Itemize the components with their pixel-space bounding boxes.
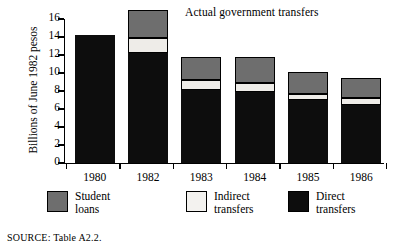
bar-1983[interactable]	[181, 19, 221, 163]
legend-swatch-indirect	[186, 191, 207, 212]
y-tick-label: 14	[34, 29, 60, 41]
legend-label-line1: Indirect	[214, 190, 254, 203]
bar-segment-1985-student-loans	[288, 72, 328, 94]
bar-segment-1984-indirect-transfers	[235, 83, 275, 92]
legend-item-student[interactable]: Studentloans	[47, 190, 110, 216]
bar-segment-1985-indirect-transfers	[288, 94, 328, 100]
x-tick-mark	[226, 163, 227, 169]
bar-1980[interactable]	[75, 19, 115, 163]
source-note: SOURCE: Table A2.2.	[7, 232, 102, 243]
legend-label-line1: Student	[75, 190, 110, 203]
x-tick-mark	[173, 163, 174, 169]
x-tick-mark	[119, 163, 120, 169]
figure: Actual government transfers Billions of …	[0, 0, 395, 252]
bar-segment-1982-student-loans	[128, 10, 168, 38]
bar-1985[interactable]	[288, 19, 328, 163]
bar-1982[interactable]	[128, 19, 168, 163]
legend-label-line2: transfers	[214, 203, 254, 216]
legend-item-direct[interactable]: Directtransfers	[288, 190, 356, 216]
legend-swatch-student	[47, 191, 68, 212]
bar-segment-1983-indirect-transfers	[181, 80, 221, 90]
bar-segment-1982-indirect-transfers	[128, 38, 168, 53]
y-tick-label: 10	[34, 65, 60, 77]
source-text: Table A2.2.	[53, 232, 101, 243]
bar-segment-1986-indirect-transfers	[341, 98, 381, 105]
x-tick-label-1984: 1984	[243, 171, 266, 183]
y-tick-label: 6	[34, 101, 60, 113]
y-axis-line	[64, 19, 65, 163]
y-tick-label: 16	[34, 11, 60, 23]
x-tick-label-1986: 1986	[350, 171, 373, 183]
x-tick-mark	[66, 163, 67, 169]
x-tick-mark	[279, 163, 280, 169]
bar-segment-1983-student-loans	[181, 57, 221, 80]
x-tick-label-1982: 1982	[137, 171, 160, 183]
bar-segment-1986-direct-transfers	[341, 105, 381, 163]
legend-label: Studentloans	[75, 190, 110, 216]
bar-segment-1982-direct-transfers	[128, 53, 168, 163]
y-tick-label: 12	[34, 47, 60, 59]
y-tick-label: 2	[34, 137, 60, 149]
chart-title: Actual government transfers	[185, 6, 319, 18]
bar-segment-1984-student-loans	[235, 57, 275, 83]
x-tick-label-1985: 1985	[297, 171, 320, 183]
legend-item-indirect[interactable]: Indirecttransfers	[186, 190, 254, 216]
bar-segment-1986-student-loans	[341, 78, 381, 99]
y-tick-label: 4	[34, 119, 60, 131]
y-tick-label: 0	[34, 155, 60, 167]
chart-legend: StudentloansIndirecttransfersDirecttrans…	[0, 190, 395, 230]
legend-label: Directtransfers	[316, 190, 356, 216]
x-tick-label-1983: 1983	[190, 171, 213, 183]
legend-label-line2: loans	[75, 203, 110, 216]
bar-segment-1980-direct-transfers	[75, 35, 115, 163]
legend-swatch-direct	[288, 191, 309, 212]
x-tick-mark	[333, 163, 334, 169]
x-axis-line	[64, 163, 384, 164]
x-tick-mark	[386, 163, 387, 169]
source-label: SOURCE:	[7, 232, 51, 243]
legend-label-line1: Direct	[316, 190, 356, 203]
y-tick-label: 8	[34, 83, 60, 95]
legend-label: Indirecttransfers	[214, 190, 254, 216]
x-tick-label-1980: 1980	[83, 171, 106, 183]
bar-segment-1984-direct-transfers	[235, 92, 275, 163]
bar-1984[interactable]	[235, 19, 275, 163]
bar-1986[interactable]	[341, 19, 381, 163]
legend-label-line2: transfers	[316, 203, 356, 216]
plot-area: 0246810121416 198019821983198419851986	[64, 19, 384, 163]
bar-segment-1983-direct-transfers	[181, 90, 221, 163]
bar-segment-1985-direct-transfers	[288, 100, 328, 163]
